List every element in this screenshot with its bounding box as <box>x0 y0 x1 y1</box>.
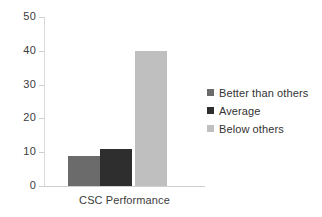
legend-item[interactable]: Below others <box>207 120 322 137</box>
chart-legend: Better than othersAverageBelow others <box>207 84 322 138</box>
legend-item-label: Average <box>219 105 260 117</box>
y-axis-tick-label: 10 <box>10 146 36 157</box>
bar-better-than-others <box>68 156 100 186</box>
legend-item[interactable]: Average <box>207 102 322 119</box>
y-axis-tick-label: 30 <box>10 79 36 90</box>
legend-swatch-icon <box>207 107 214 114</box>
bar-chart: 50403020100 CSC Performance Better than … <box>0 0 322 217</box>
x-axis-line <box>44 186 205 187</box>
legend-item-label: Better than others <box>219 87 308 99</box>
legend-item-label: Below others <box>219 123 284 135</box>
bar-below-others <box>135 51 167 186</box>
y-axis-tick-label: 50 <box>10 11 36 22</box>
y-axis-tick-label: 40 <box>10 45 36 56</box>
y-axis-tick-label: 20 <box>10 112 36 123</box>
legend-swatch-icon <box>207 125 214 132</box>
legend-swatch-icon <box>207 89 214 96</box>
bar-average <box>100 149 132 186</box>
legend-item[interactable]: Better than others <box>207 84 322 101</box>
y-axis-tick-label: 0 <box>10 180 36 191</box>
x-axis-label: CSC Performance <box>44 194 205 207</box>
plot-area <box>44 17 205 186</box>
y-axis-tick-mark <box>39 186 44 187</box>
